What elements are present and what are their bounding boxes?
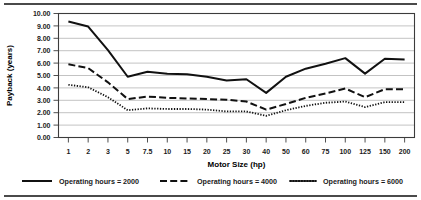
x-tick-label: 30 bbox=[242, 148, 250, 155]
x-tick-label: 150 bbox=[379, 148, 391, 155]
series-line-1 bbox=[68, 22, 404, 93]
y-axis-title: Payback (years) bbox=[5, 45, 14, 106]
x-tick-label: 5 bbox=[126, 148, 130, 155]
y-tick-label: 3.00 bbox=[37, 97, 51, 104]
y-tick-label: 7.00 bbox=[37, 47, 51, 54]
y-axis-tick-labels: 0.001.002.003.004.005.006.007.008.009.00… bbox=[33, 10, 51, 141]
figure-container: 0.001.002.003.004.005.006.007.008.009.00… bbox=[0, 0, 421, 200]
x-tick-label: 3 bbox=[106, 148, 110, 155]
x-tick-label: 60 bbox=[302, 148, 310, 155]
data-series-group bbox=[68, 22, 404, 116]
x-tick-label: 20 bbox=[203, 148, 211, 155]
x-tick-label: 7.5 bbox=[143, 148, 153, 155]
y-tick-label: 2.00 bbox=[37, 109, 51, 116]
payback-line-chart: 0.001.002.003.004.005.006.007.008.009.00… bbox=[0, 0, 421, 200]
y-tick-label: 10.00 bbox=[33, 10, 51, 17]
x-tick-label: 10 bbox=[163, 148, 171, 155]
legend-label-3: Operating hours = 6000 bbox=[323, 177, 403, 186]
x-tick-label: 200 bbox=[399, 148, 411, 155]
x-axis-tick-labels: 12357.5101520253040506075100125150200 bbox=[66, 148, 410, 155]
y-axis-tickmarks bbox=[54, 14, 59, 138]
x-tick-label: 100 bbox=[339, 148, 351, 155]
x-tick-label: 1 bbox=[66, 148, 70, 155]
y-tick-label: 1.00 bbox=[37, 122, 51, 129]
x-axis-tickmarks bbox=[68, 138, 404, 143]
legend-label-1: Operating hours = 2000 bbox=[59, 177, 139, 186]
x-tick-label: 15 bbox=[183, 148, 191, 155]
x-tick-label: 125 bbox=[359, 148, 371, 155]
x-tick-label: 25 bbox=[223, 148, 231, 155]
y-tick-label: 4.00 bbox=[37, 85, 51, 92]
x-tick-label: 50 bbox=[282, 148, 290, 155]
x-tick-label: 2 bbox=[86, 148, 90, 155]
legend: Operating hours = 2000Operating hours = … bbox=[22, 177, 403, 186]
y-tick-label: 0.00 bbox=[37, 134, 51, 141]
gridlines-group bbox=[59, 26, 415, 125]
y-tick-label: 6.00 bbox=[37, 60, 51, 67]
y-tick-label: 5.00 bbox=[37, 72, 51, 79]
y-tick-label: 8.00 bbox=[37, 35, 51, 42]
series-line-2 bbox=[68, 64, 404, 109]
x-tick-label: 40 bbox=[262, 148, 270, 155]
y-tick-label: 9.00 bbox=[37, 23, 51, 30]
legend-label-2: Operating hours = 4000 bbox=[197, 177, 277, 186]
x-tick-label: 75 bbox=[322, 148, 330, 155]
x-axis-title: Motor Size (hp) bbox=[208, 160, 266, 169]
